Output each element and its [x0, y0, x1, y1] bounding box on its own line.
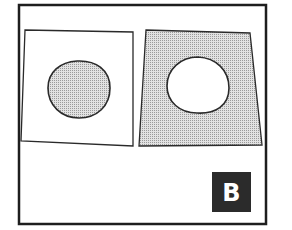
figure-panel-b: B [0, 0, 292, 230]
right-white-circle [167, 57, 229, 113]
panel-label-text: B [222, 179, 240, 207]
panel-label-badge: B [212, 172, 251, 212]
left-shaded-circle [48, 61, 110, 118]
